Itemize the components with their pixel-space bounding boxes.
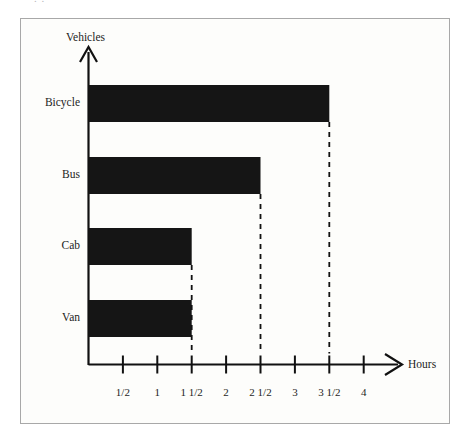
x-axis-tick-label: 3 xyxy=(292,386,298,398)
bar-cab xyxy=(89,228,192,265)
bar-chart: Vehicles Hours BicycleBusCabVan 1/211 1/… xyxy=(0,0,469,443)
bar-series xyxy=(89,85,330,337)
x-axis-tick-label: 1 xyxy=(155,386,161,398)
category-label-cab: Cab xyxy=(22,239,80,251)
category-label-bus: Bus xyxy=(22,168,80,180)
x-axis-tick-label: 1 1/2 xyxy=(181,386,203,398)
droplines xyxy=(192,122,330,354)
x-axis-tick-label: 2 1/2 xyxy=(249,386,271,398)
x-axis-tick-label: 2 xyxy=(223,386,229,398)
x-axis-tick-label: 4 xyxy=(361,386,367,398)
x-axis-tick-label: 1/2 xyxy=(116,386,130,398)
bar-bicycle xyxy=(89,85,330,122)
bar-bus xyxy=(89,157,261,194)
axes-and-bars xyxy=(0,0,469,443)
bar-van xyxy=(89,300,192,337)
category-label-bicycle: Bicycle xyxy=(22,96,80,108)
category-label-van: Van xyxy=(22,311,80,323)
x-axis-tick-label: 3 1/2 xyxy=(318,386,340,398)
